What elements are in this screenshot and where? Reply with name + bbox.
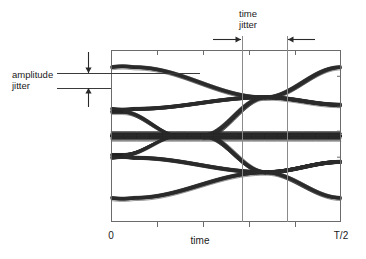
eye-diagram-traces xyxy=(110,65,341,202)
time-jitter-vertical-lines xyxy=(243,36,288,222)
eye-diagram-figure: amplitude jitter time jitter time 0 T/2 xyxy=(0,0,366,259)
amplitude-jitter-arrow-down-head xyxy=(85,68,91,74)
time-jitter-arrow-right-head xyxy=(288,37,294,43)
amplitude-jitter-label-line1: amplitude xyxy=(12,69,53,80)
amplitude-jitter-annotation xyxy=(57,52,200,107)
x-axis-min-tick-label: 0 xyxy=(108,230,114,241)
time-jitter-arrow-left-head xyxy=(236,37,242,43)
time-jitter-label-line1: time xyxy=(239,8,257,19)
x-axis-max-tick-label: T/2 xyxy=(334,230,349,241)
x-axis-label: time xyxy=(191,235,210,246)
eye-trace xyxy=(111,98,341,137)
amplitude-jitter-label-line2: jitter xyxy=(11,80,30,91)
time-jitter-label-line2: jitter xyxy=(238,19,257,30)
time-jitter-arrows xyxy=(213,37,315,43)
